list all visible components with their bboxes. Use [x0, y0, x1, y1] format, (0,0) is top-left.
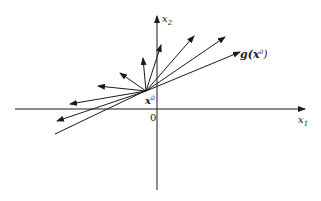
- gradient-label: g(x0): [240, 48, 268, 61]
- vector-6: [98, 86, 146, 91]
- vector-8: [57, 91, 146, 121]
- gradient-line: [55, 91, 145, 134]
- diagram-canvas: x2 x1 0 x0 g(x0): [0, 0, 321, 201]
- origin-label: 0: [150, 112, 156, 123]
- vectors: [57, 36, 240, 121]
- vector-7: [70, 91, 146, 104]
- vector-g: [146, 52, 240, 91]
- vector-4: [143, 58, 146, 91]
- x-axis-label: x1: [298, 114, 308, 128]
- y-axis-label: x2: [162, 13, 173, 27]
- vector-3: [146, 45, 161, 91]
- point-label: x0: [144, 94, 155, 106]
